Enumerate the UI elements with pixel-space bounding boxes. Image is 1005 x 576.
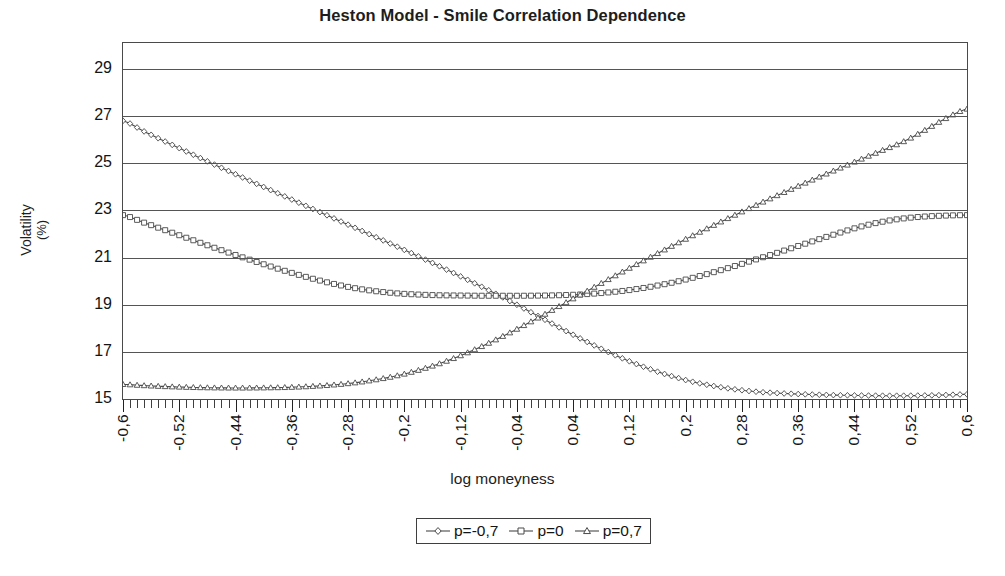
x-axis-tick-label: 0,36 <box>789 414 809 445</box>
legend-item[interactable]: p=0 <box>508 522 563 540</box>
x-axis-tick-label: -0,36 <box>283 414 303 451</box>
legend-item[interactable]: p=0,7 <box>574 522 642 540</box>
x-axis-tick-label: -0,6 <box>114 414 134 442</box>
x-axis-tick-label: -0,28 <box>339 414 359 451</box>
x-axis-tick-label: 0,6 <box>958 414 978 436</box>
x-axis-tick-labels: -0,6-0,52-0,44-0,36-0,28-0,2-0,12-0,040,… <box>0 0 1005 576</box>
x-axis-tick-label: 0,44 <box>845 414 865 445</box>
x-axis-tick-label: 0,04 <box>564 414 584 445</box>
legend-label: p=-0,7 <box>454 522 498 540</box>
legend-marker-diamond-icon <box>425 525 451 537</box>
x-axis-tick-label: -0,2 <box>395 414 415 442</box>
chart-legend: p=-0,7p=0p=0,7 <box>416 518 651 544</box>
x-axis-tick-label: 0,12 <box>620 414 640 445</box>
x-axis-tick-label: 0,28 <box>733 414 753 445</box>
x-axis-tick-label: -0,04 <box>508 414 528 451</box>
legend-label: p=0,7 <box>603 522 642 540</box>
legend-marker-square-icon <box>508 525 534 537</box>
chart-figure: Heston Model - Smile Correlation Depende… <box>0 0 1005 576</box>
x-axis-tick-label: 0,2 <box>677 414 697 436</box>
legend-item[interactable]: p=-0,7 <box>425 522 498 540</box>
x-axis-tick-label: -0,44 <box>227 414 247 451</box>
x-axis-tick-label: -0,12 <box>452 414 472 451</box>
legend-marker-triangle-icon <box>574 525 600 537</box>
legend-label: p=0 <box>537 522 563 540</box>
x-axis-title: log moneyness <box>0 470 1005 488</box>
x-axis-tick-label: 0,52 <box>902 414 922 445</box>
x-axis-tick-label: -0,52 <box>170 414 190 451</box>
